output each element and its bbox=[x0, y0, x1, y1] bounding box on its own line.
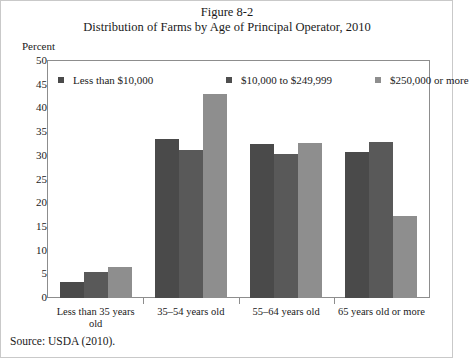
y-axis-tick-label: 25 bbox=[23, 174, 47, 185]
y-axis-tick-label: 15 bbox=[23, 221, 47, 232]
y-axis-tick-label: 30 bbox=[23, 150, 47, 161]
legend-label: $10,000 to $249,999 bbox=[241, 74, 332, 86]
bar[interactable] bbox=[274, 154, 298, 298]
bar[interactable] bbox=[298, 143, 322, 298]
y-axis-tick-label: 20 bbox=[23, 197, 47, 208]
bar[interactable] bbox=[179, 150, 203, 298]
y-axis-tick-label: 35 bbox=[23, 126, 47, 137]
x-axis-tick-mark bbox=[239, 298, 240, 304]
y-axis-tick-label: 5 bbox=[23, 268, 47, 279]
bar[interactable] bbox=[369, 142, 393, 298]
x-axis-category-label: 65 years old or more bbox=[334, 306, 429, 318]
legend-item[interactable]: Less than $10,000 bbox=[58, 74, 153, 86]
plot-area bbox=[48, 61, 429, 298]
x-axis-category-label: 55–64 years old bbox=[239, 306, 334, 318]
bar[interactable] bbox=[155, 139, 179, 298]
legend-item[interactable]: $250,000 or more bbox=[375, 74, 469, 86]
x-axis-tick-mark bbox=[143, 298, 144, 304]
bar[interactable] bbox=[345, 152, 369, 298]
bar[interactable] bbox=[60, 282, 84, 298]
y-axis-tick-label: 50 bbox=[23, 55, 47, 66]
legend-item[interactable]: $10,000 to $249,999 bbox=[226, 74, 332, 86]
x-axis-category-label-line: 55–64 years old bbox=[239, 306, 334, 318]
bar[interactable] bbox=[108, 267, 132, 298]
x-axis-category-label: 35–54 years old bbox=[143, 306, 238, 318]
x-axis-category-label: Less than 35 yearsold bbox=[48, 306, 143, 330]
legend-label: Less than $10,000 bbox=[73, 74, 153, 86]
x-axis-category-label-line: old bbox=[48, 318, 143, 330]
x-axis-category-label-line: Less than 35 years bbox=[48, 306, 143, 318]
y-axis-tick-label: 0 bbox=[23, 292, 47, 303]
x-axis-category-label-line: 35–54 years old bbox=[143, 306, 238, 318]
bar-group bbox=[250, 61, 322, 298]
bar-group bbox=[345, 61, 417, 298]
y-axis-tick-label: 45 bbox=[23, 79, 47, 90]
x-axis-tick-mark bbox=[334, 298, 335, 304]
y-axis-unit-label: Percent bbox=[22, 40, 55, 53]
bar[interactable] bbox=[203, 94, 227, 298]
bar[interactable] bbox=[250, 144, 274, 298]
legend-swatch-icon bbox=[375, 77, 381, 83]
bar[interactable] bbox=[84, 272, 108, 298]
y-axis-tick-label: 10 bbox=[23, 245, 47, 256]
bar-group bbox=[155, 61, 227, 298]
legend-swatch-icon bbox=[58, 77, 64, 83]
source-note: Source: USDA (2010). bbox=[10, 335, 115, 348]
y-axis: 05101520253035404550 bbox=[13, 60, 47, 298]
legend-swatch-icon bbox=[226, 77, 232, 83]
figure-caption: Figure 8-2 bbox=[0, 5, 454, 20]
legend-label: $250,000 or more bbox=[390, 74, 469, 86]
y-axis-tick-label: 40 bbox=[23, 102, 47, 113]
figure-title: Distribution of Farms by Age of Principa… bbox=[0, 20, 454, 35]
bar-group bbox=[60, 61, 132, 298]
bar[interactable] bbox=[393, 216, 417, 298]
x-axis-category-label-line: 65 years old or more bbox=[334, 306, 429, 318]
